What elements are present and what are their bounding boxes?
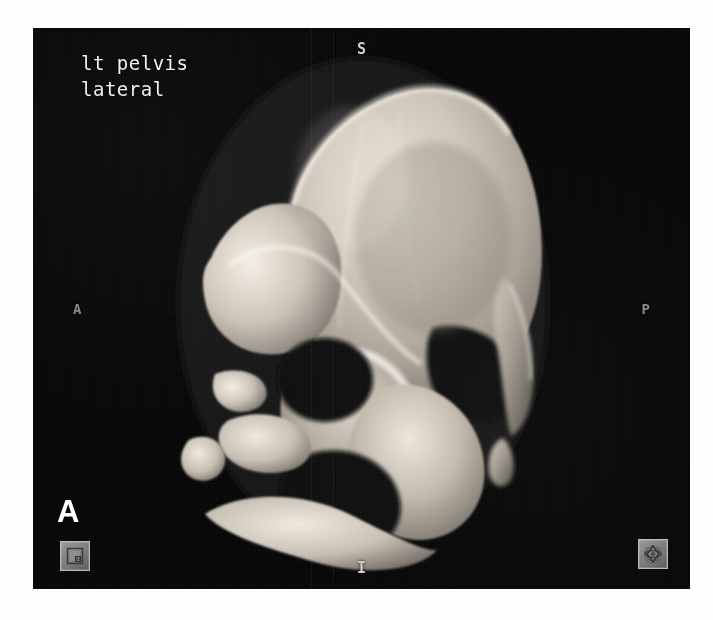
window-level-button[interactable] [60, 541, 90, 571]
orientation-marker-inferior: I [357, 559, 366, 577]
orientation-marker-posterior: P [642, 301, 650, 317]
orientation-marker-superior: S [357, 40, 366, 58]
screenshot-root: lt pelvis lateral S I A P A [0, 0, 713, 620]
rotate-3d-button[interactable] [638, 539, 668, 569]
volume-rendering [33, 28, 690, 589]
image-viewport[interactable]: lt pelvis lateral S I A P A [33, 28, 690, 589]
study-label-line2: lateral [81, 78, 165, 100]
orientation-marker-anterior: A [73, 301, 81, 317]
rotate-orbit-icon [642, 543, 664, 565]
corner-orientation-letter: A [57, 496, 79, 527]
study-label-line1: lt pelvis [81, 52, 188, 74]
image-window-level-icon [65, 546, 85, 566]
study-label: lt pelvis lateral [81, 50, 188, 102]
